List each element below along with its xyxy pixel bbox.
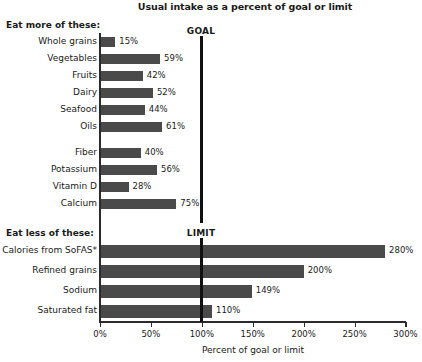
goal-reference-line [200,36,203,223]
bar-value-label: 149% [256,285,280,295]
bar-value-label: 52% [157,87,176,97]
bar [100,54,160,64]
bar [100,71,143,81]
x-axis-tick [355,322,356,327]
bar [100,148,141,158]
bar-value-label: 15% [119,36,138,46]
x-axis-tick-label: 50% [131,329,171,339]
bar [100,105,145,115]
group-header-eat-less: Eat less of these: [6,228,94,238]
bar-value-label: 200% [308,265,332,275]
category-label: Calories from SoFAS* [0,245,97,255]
x-axis-tick [151,322,152,327]
chart-title: Usual intake as a percent of goal or lim… [120,1,370,12]
bar [100,182,129,192]
category-label: Vegetables [0,53,97,63]
bar [100,199,176,209]
x-axis-tick [253,322,254,327]
x-axis-tick-label: 0% [80,329,120,339]
bar-value-label: 75% [180,198,199,208]
bar-value-label: 61% [166,121,185,131]
x-axis-tick [202,322,203,327]
category-label: Potassium [0,164,97,174]
chart-container: Usual intake as a percent of goal or lim… [0,0,422,362]
category-label: Sodium [0,285,97,295]
bar [100,245,385,258]
category-label: Oils [0,121,97,131]
category-label: Fruits [0,70,97,80]
bar-value-label: 44% [149,104,168,114]
category-label: Whole grains [0,36,97,46]
bar-value-label: 59% [164,53,183,63]
bar [100,88,153,98]
x-axis-tick-label: 250% [335,329,375,339]
x-axis-title: Percent of goal or limit [100,345,406,355]
bar-value-label: 56% [161,164,180,174]
bar [100,122,162,132]
category-label: Fiber [0,147,97,157]
x-axis-tick [100,322,101,327]
category-label: Saturated fat [0,305,97,315]
bar-value-label: 110% [216,305,240,315]
y-axis-line [99,33,101,322]
limit-reference-line [200,238,203,322]
x-axis-tick-label: 150% [233,329,273,339]
bar [100,305,212,318]
x-axis-tick-label: 100% [182,329,222,339]
goal-label: GOAL [166,26,236,36]
bar [100,37,115,47]
category-label: Seafood [0,104,97,114]
bar [100,165,157,175]
x-axis-tick [405,322,406,327]
limit-label: LIMIT [166,228,236,238]
bar-value-label: 42% [147,70,166,80]
group-header-eat-more: Eat more of these: [6,20,100,30]
bar [100,285,252,298]
bar-value-label: 28% [133,181,152,191]
bar-value-label: 280% [389,245,413,255]
x-axis-tick [304,322,305,327]
bar-value-label: 40% [145,147,164,157]
category-label: Vitamin D [0,181,97,191]
category-label: Dairy [0,87,97,97]
x-axis-tick-label: 300% [385,329,422,339]
category-label: Refined grains [0,265,97,275]
x-axis-tick-label: 200% [284,329,324,339]
category-label: Calcium [0,198,97,208]
